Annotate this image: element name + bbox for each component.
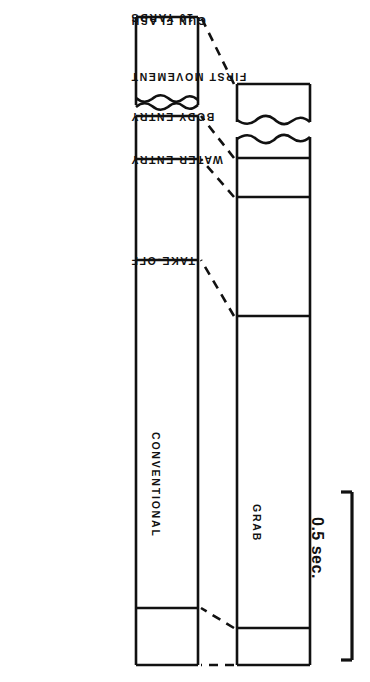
label-first-movement: FIRST MOVEMENT bbox=[130, 72, 246, 83]
grab-upper-block bbox=[237, 84, 310, 122]
grab-bar bbox=[237, 137, 310, 665]
scale-bar-label: 0.5 sec. bbox=[309, 517, 325, 579]
scale-bracket bbox=[341, 492, 352, 660]
connector-take-off bbox=[201, 260, 234, 316]
rotated-drawing-canvas: GUN FLASH FIRST MOVEMENT TAKE-OFF WATER … bbox=[0, 0, 370, 682]
conventional-break-wave-upper bbox=[136, 95, 198, 102]
conventional-break-wave-lower bbox=[136, 103, 198, 110]
grab-break-wave-upper bbox=[237, 116, 310, 124]
label-ten-yards: 10 YARDS bbox=[130, 13, 193, 24]
timeline-artwork bbox=[0, 0, 370, 682]
figure-container: GUN FLASH FIRST MOVEMENT TAKE-OFF WATER … bbox=[0, 0, 370, 682]
label-take-off: TAKE-OFF bbox=[130, 256, 195, 267]
grab-break-wave-lower bbox=[237, 135, 310, 143]
label-body-entry: BODY ENTRY bbox=[130, 112, 214, 123]
conventional-bar bbox=[136, 116, 198, 665]
series-label-grab: GRAB bbox=[252, 504, 263, 542]
label-water-entry: WATER ENTRY bbox=[130, 155, 223, 166]
conventional-upper-block bbox=[136, 17, 198, 105]
series-label-conventional: CONVENTIONAL bbox=[151, 432, 162, 538]
connector-first-movement bbox=[201, 608, 234, 628]
